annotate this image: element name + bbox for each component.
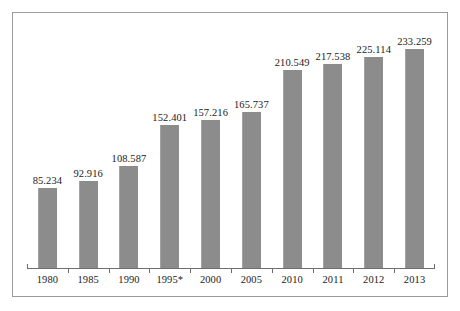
- plot-area: 85.234 92.916 108.587 152.401 157.216: [27, 19, 435, 268]
- bar-slot-1980: 85.234: [27, 19, 68, 268]
- x-label-1980: 1980: [27, 274, 68, 285]
- x-axis-labels: 1980 1985 1990 1995* 2000 2005 2010 2011…: [27, 274, 435, 285]
- x-axis-tick: [231, 269, 232, 273]
- x-axis-tick: [272, 269, 273, 273]
- x-label-2000: 2000: [190, 274, 231, 285]
- bar-value-label: 217.538: [316, 51, 351, 62]
- bar-2011[interactable]: [323, 64, 342, 268]
- x-label-1995: 1995*: [149, 274, 190, 285]
- bar-slot-2011: 217.538: [313, 19, 354, 268]
- bar-value-label: 210.549: [275, 57, 310, 68]
- bar-value-label: 152.401: [152, 112, 187, 123]
- x-axis-tick: [68, 269, 69, 273]
- x-label-2011: 2011: [313, 274, 354, 285]
- bar-slot-2013: 233.259: [394, 19, 435, 268]
- bar-slot-2000: 157.216: [190, 19, 231, 268]
- bar-2013[interactable]: [405, 49, 424, 268]
- bar-slot-2010: 210.549: [272, 19, 313, 268]
- x-label-2005: 2005: [231, 274, 272, 285]
- bar-value-label: 165.737: [234, 99, 269, 110]
- bar-2010[interactable]: [283, 70, 302, 268]
- bar-1985[interactable]: [79, 181, 98, 268]
- x-label-1985: 1985: [68, 274, 109, 285]
- x-axis-tick: [109, 269, 110, 273]
- x-axis-tick: [353, 269, 354, 273]
- bar-slot-2005: 165.737: [231, 19, 272, 268]
- bar-slot-1995: 152.401: [149, 19, 190, 268]
- bar-1995[interactable]: [160, 125, 179, 268]
- bar-value-label: 233.259: [397, 36, 432, 47]
- bar-slot-1985: 92.916: [68, 19, 109, 268]
- bar-1980[interactable]: [38, 188, 57, 268]
- x-axis-tick: [149, 269, 150, 273]
- x-axis-tick: [394, 269, 395, 273]
- bar-slot-2012: 225.114: [353, 19, 394, 268]
- bar-2012[interactable]: [364, 57, 383, 268]
- bar-chart: 85.234 92.916 108.587 152.401 157.216: [0, 0, 460, 311]
- bar-2005[interactable]: [242, 112, 261, 268]
- x-label-2010: 2010: [272, 274, 313, 285]
- bar-value-label: 225.114: [357, 44, 391, 55]
- x-label-2012: 2012: [353, 274, 394, 285]
- chart-frame: 85.234 92.916 108.587 152.401 157.216: [12, 12, 448, 297]
- x-axis-tick: [313, 269, 314, 273]
- x-label-1990: 1990: [109, 274, 150, 285]
- bar-value-label: 92.916: [73, 168, 102, 179]
- bar-2000[interactable]: [201, 120, 220, 268]
- bars-container: 85.234 92.916 108.587 152.401 157.216: [27, 19, 435, 268]
- bar-value-label: 108.587: [112, 153, 147, 164]
- bar-slot-1990: 108.587: [109, 19, 150, 268]
- x-label-2013: 2013: [394, 274, 435, 285]
- x-axis-tick: [190, 269, 191, 273]
- bar-value-label: 85.234: [33, 175, 62, 186]
- bar-value-label: 157.216: [193, 107, 228, 118]
- bar-1990[interactable]: [119, 166, 138, 268]
